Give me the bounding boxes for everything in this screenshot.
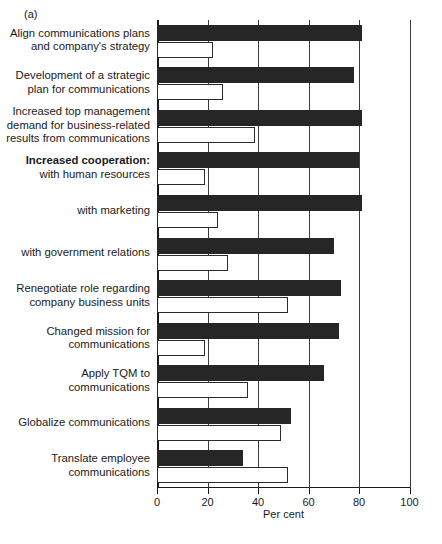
bar-light-10	[157, 467, 288, 483]
bar-dark-9	[157, 408, 291, 424]
category-label-line: results from communications	[4, 132, 150, 146]
gridline-80	[359, 20, 360, 488]
category-label-line: communications	[4, 381, 150, 395]
x-tick-60	[309, 488, 310, 494]
bar-dark-0	[157, 25, 362, 41]
bar-light-4	[157, 212, 218, 228]
bar-dark-10	[157, 450, 243, 466]
category-label-line: company business units	[4, 296, 150, 310]
bar-dark-8	[157, 365, 324, 381]
category-label-8: Apply TQM tocommunications	[4, 367, 150, 394]
category-label-line: communications	[4, 466, 150, 480]
category-label-line: Development of a strategic	[4, 69, 150, 83]
category-label-6: Renegotiate role regardingcompany busine…	[4, 282, 150, 309]
plot-area: 020406080100	[157, 20, 410, 488]
category-label-line: Increased top management	[4, 105, 150, 119]
category-label-3: Increased cooperation:with human resourc…	[4, 154, 150, 181]
bar-light-1	[157, 84, 223, 100]
bar-dark-7	[157, 323, 339, 339]
gridline-60	[309, 20, 310, 488]
category-label-2: Increased top managementdemand for busin…	[4, 105, 150, 146]
category-label-line: and company's strategy	[4, 40, 150, 54]
bar-dark-2	[157, 110, 362, 126]
bar-light-5	[157, 255, 228, 271]
category-label-line: Globalize communications	[4, 416, 150, 430]
bar-light-6	[157, 297, 288, 313]
bar-light-3	[157, 169, 205, 185]
category-label-4: with marketing	[4, 204, 150, 218]
category-label-9: Globalize communications	[4, 416, 150, 430]
bar-dark-6	[157, 280, 341, 296]
bar-dark-4	[157, 195, 362, 211]
category-label-7: Changed mission forcommunications	[4, 325, 150, 352]
x-tick-100	[410, 488, 411, 494]
x-tick-80	[359, 488, 360, 494]
bar-dark-1	[157, 67, 354, 83]
category-label-line: Translate employee	[4, 452, 150, 466]
bar-light-9	[157, 425, 281, 441]
category-label-1: Development of a strategicplan for commu…	[4, 69, 150, 96]
bar-light-7	[157, 340, 205, 356]
category-label-5: with government relations	[4, 246, 150, 260]
gridline-100	[410, 20, 411, 488]
category-label-line: plan for communications	[4, 83, 150, 97]
bar-dark-5	[157, 238, 334, 254]
bar-dark-3	[157, 152, 359, 168]
bar-light-2	[157, 127, 255, 143]
bar-light-0	[157, 42, 213, 58]
x-tick-0	[157, 488, 158, 494]
x-tick-20	[208, 488, 209, 494]
category-label-line: with government relations	[4, 246, 150, 260]
x-tick-40	[258, 488, 259, 494]
x-axis-title: Per cent	[157, 508, 410, 520]
category-label-line: Align communications plans	[4, 27, 150, 41]
category-label-column: Align communications plansand company's …	[0, 0, 150, 544]
category-label-line: demand for business-related	[4, 119, 150, 133]
x-axis-line	[157, 487, 410, 489]
category-label-0: Align communications plansand company's …	[4, 27, 150, 54]
horizontal-bar-chart: (a) Align communications plansand compan…	[0, 0, 442, 544]
category-label-line: with marketing	[4, 204, 150, 218]
category-label-line: Increased cooperation:	[4, 154, 150, 168]
bar-light-8	[157, 382, 248, 398]
category-label-line: Apply TQM to	[4, 367, 150, 381]
category-label-line: Renegotiate role regarding	[4, 282, 150, 296]
category-label-10: Translate employeecommunications	[4, 452, 150, 479]
category-label-line: with human resources	[4, 168, 150, 182]
category-label-line: Changed mission for	[4, 325, 150, 339]
category-label-line: communications	[4, 338, 150, 352]
